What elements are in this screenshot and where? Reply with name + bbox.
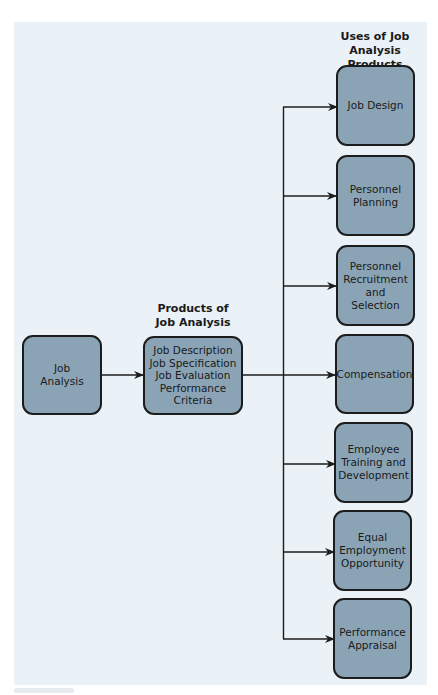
use-box-recruitment-selection: Personnel Recruitment and Selection	[336, 245, 415, 326]
use-box-performance-appraisal: Performance Appraisal	[333, 598, 412, 679]
use-box-training-development: Employee Training and Development	[334, 422, 413, 503]
use-box-job-design: Job Design	[336, 65, 415, 146]
products-heading: Products of Job Analysis	[138, 302, 248, 330]
use-box-personnel-planning: Personnel Planning	[336, 155, 415, 236]
faint-caption-remnant	[14, 688, 74, 693]
job-analysis-box: Job Analysis	[22, 335, 102, 415]
products-box: Job Description Job Specification Job Ev…	[143, 336, 243, 415]
use-box-equal-employment: Equal Employment Opportunity	[333, 510, 412, 591]
use-box-compensation: Compensation	[335, 334, 414, 414]
